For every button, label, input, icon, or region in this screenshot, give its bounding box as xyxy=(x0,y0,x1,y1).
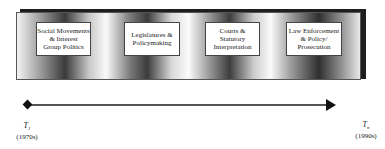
timeline-start-subscript: 1 xyxy=(28,126,31,131)
timeline-end-arrow-icon xyxy=(326,99,336,111)
timeline-end-subscript: n xyxy=(367,125,370,130)
stage-box-social-movements: Social Movements & Interest Group Politi… xyxy=(36,22,91,56)
timeline-axis xyxy=(28,104,328,106)
stage-box-legislatures: Legislatures & Policymaking xyxy=(124,22,180,56)
timeline-end-period: (1990s) xyxy=(355,132,376,140)
timeline-start-diamond-icon xyxy=(23,100,33,110)
stage-box-courts: Courts & Statutory Interpretation xyxy=(205,22,260,56)
stage-box-law-enforcement: Law Enforcement & Policy/ Prosecution xyxy=(286,22,342,56)
timeline-start-period: (1970s) xyxy=(16,133,37,141)
timeline-start-label: T1 (1970s) xyxy=(12,122,42,141)
timeline-end-label: Tn (1990s) xyxy=(350,121,382,140)
